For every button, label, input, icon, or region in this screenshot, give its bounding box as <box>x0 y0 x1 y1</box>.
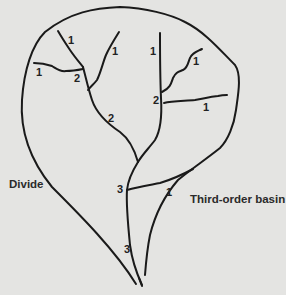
basin-label: Third-order basin <box>190 194 279 206</box>
stream-order-label: 2 <box>74 73 80 84</box>
stream-order-label: 3 <box>117 184 123 195</box>
divide-label: Divide <box>9 179 44 191</box>
stream-order-label: 2 <box>153 95 159 106</box>
stream-order-label: 1 <box>203 102 209 113</box>
stream-order-label: 2 <box>108 113 114 124</box>
stream-order-label: 1 <box>36 67 42 78</box>
tributary-order-1-e <box>164 95 227 103</box>
stream-order-label: 1 <box>150 46 156 57</box>
stream-order-label: 1 <box>112 46 118 57</box>
basin-drawing <box>0 0 279 295</box>
tributary-order-1-f <box>127 169 193 190</box>
drainage-basin-diagram: 1 1 1 2 1 1 2 1 2 3 1 3 Divide Third-ord… <box>0 0 279 295</box>
stream-order-label: 1 <box>166 187 172 198</box>
outlet-mark <box>139 278 142 286</box>
stream-order-label: 3 <box>124 244 130 255</box>
tributary-order-1-b <box>88 32 119 90</box>
main-stream-order-3 <box>127 162 142 285</box>
stream-order-label: 1 <box>193 56 199 67</box>
stream-order-label: 1 <box>68 35 74 46</box>
